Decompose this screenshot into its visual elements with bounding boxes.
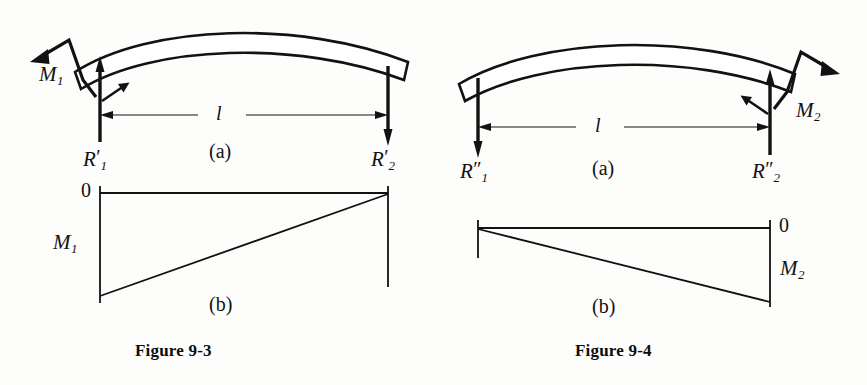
span-dimension-right-arrowhead — [375, 111, 388, 119]
moment-diagram-ordinate-label-m2: M2 — [780, 258, 805, 281]
left-small-diagonal-shaft — [102, 86, 124, 101]
subfigure-label-a: (a) — [592, 158, 614, 178]
figure-9-4-drawing — [440, 0, 867, 385]
right-small-diagonal-shaft — [746, 99, 768, 114]
moment-diagram-zero-label: 0 — [81, 180, 91, 200]
subfigure-label-b: (b) — [592, 296, 615, 316]
subfigure-label-a: (a) — [209, 141, 231, 161]
figure-caption-9-4: Figure 9-4 — [575, 341, 652, 361]
moment-label-m2: M2 — [796, 100, 821, 123]
beam-outline — [459, 45, 795, 101]
figure-9-3-drawing — [0, 0, 440, 385]
right-reaction-arrowhead — [384, 129, 393, 146]
moment-diagram-zero-label: 0 — [779, 215, 789, 235]
span-dimension-left-arrowhead — [100, 111, 113, 119]
moment-arrowhead-2 — [821, 61, 841, 76]
right-reaction-label-r2: R′2 — [371, 147, 395, 172]
right-reaction-label-r2: R″2 — [752, 159, 780, 184]
figure-9-3: M1 R′1 R′2 l (a) 0 M1 (b) Figure 9-3 — [0, 0, 440, 385]
span-length-label: l — [216, 103, 222, 123]
span-length-label: l — [595, 115, 601, 135]
span-dimension-left-arrowhead — [478, 123, 491, 131]
moment-diagram-ordinate-label-m1: M1 — [53, 232, 78, 255]
span-dimension-right-arrowhead — [757, 123, 770, 131]
figure-page: M1 R′1 R′2 l (a) 0 M1 (b) Figure 9-3 — [0, 0, 867, 385]
figure-9-4: M2 R″1 R″2 l (a) 0 M2 (b) Figure 9-4 — [440, 0, 867, 385]
left-reaction-label-r1: R′1 — [83, 147, 107, 172]
moment-diagram-curve — [478, 229, 770, 302]
subfigure-label-b: (b) — [209, 294, 232, 314]
moment-label-m1: M1 — [39, 64, 64, 87]
left-reaction-arrowhead — [474, 141, 483, 158]
beam-outline — [75, 33, 408, 89]
left-reaction-label-r1: R″1 — [460, 159, 488, 184]
moment-diagram-curve — [100, 194, 388, 296]
figure-caption-9-3: Figure 9-3 — [135, 341, 212, 361]
